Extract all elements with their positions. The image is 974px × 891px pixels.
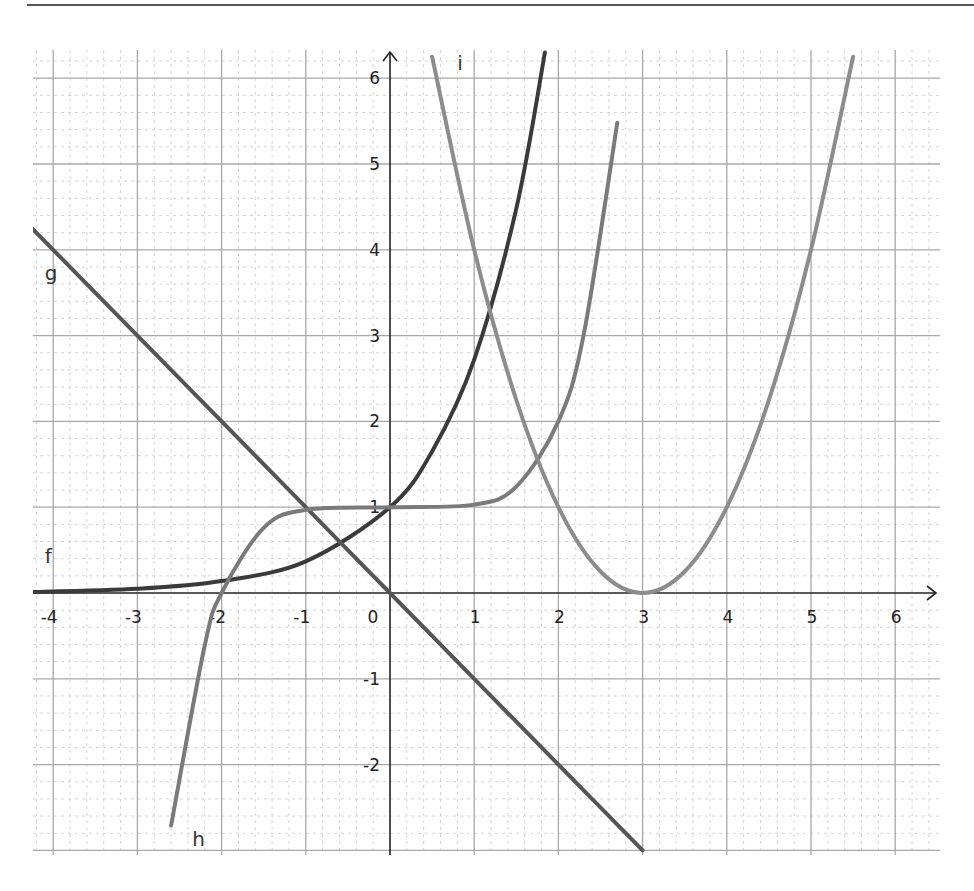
y-tick-label: -2 <box>363 755 380 775</box>
minor-grid <box>33 50 940 855</box>
function-label-g: g <box>45 261 58 285</box>
y-tick-label: 2 <box>369 411 380 431</box>
curve-f <box>28 53 545 593</box>
x-tick-label: 4 <box>722 607 733 627</box>
major-grid <box>33 50 940 855</box>
x-tick-label: 2 <box>554 607 565 627</box>
x-tick-label: 5 <box>807 607 818 627</box>
axes <box>33 52 936 855</box>
x-tick-label: -3 <box>125 607 142 627</box>
function-labels: fghi <box>45 51 463 851</box>
x-tick-label: 3 <box>638 607 649 627</box>
y-tick-label: -1 <box>363 669 380 689</box>
function-label-h: h <box>192 827 205 851</box>
x-tick-label: -4 <box>41 607 58 627</box>
y-tick-label: 4 <box>369 240 380 260</box>
function-graph: -4-3-2-10123456 -2-1123456 fghi <box>0 0 974 891</box>
x-tick-label: 6 <box>891 607 902 627</box>
x-tick-label: -1 <box>293 607 310 627</box>
function-label-f: f <box>45 544 53 568</box>
function-label-i: i <box>457 51 463 75</box>
y-tick-label: 6 <box>369 68 380 88</box>
curve-h <box>171 123 617 826</box>
y-tick-label: 5 <box>369 154 380 174</box>
x-tick-label: 0 <box>368 607 379 627</box>
x-tick-label: 1 <box>470 607 481 627</box>
y-tick-label: 3 <box>369 326 380 346</box>
x-tick-labels: -4-3-2-10123456 <box>41 607 902 627</box>
